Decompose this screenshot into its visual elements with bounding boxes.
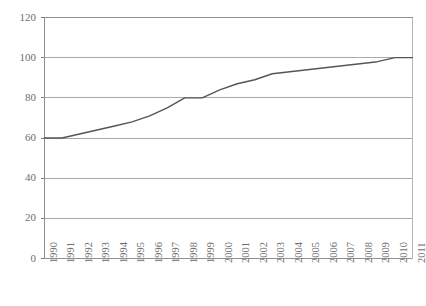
x-tick-label: 2011: [417, 242, 426, 263]
x-tick-label: 1998: [189, 242, 200, 263]
x-tick-label: 1994: [119, 242, 130, 263]
x-tick-label: 1993: [101, 242, 112, 263]
line-chart: 020406080100120 199019911992199319941995…: [0, 0, 426, 306]
x-tick-label: 1992: [84, 242, 95, 263]
y-tick-label: 40: [2, 172, 36, 183]
x-tick-label: 2009: [381, 242, 392, 263]
x-tick-label: 2004: [294, 242, 305, 263]
x-tick-label: 2007: [346, 242, 357, 263]
x-tick-label: 2003: [276, 242, 287, 263]
x-tick-label: 1990: [49, 242, 60, 263]
x-tick-label: 2005: [311, 242, 322, 263]
x-tick-label: 2010: [399, 242, 410, 263]
x-tick-label: 1997: [171, 242, 182, 263]
x-tick-label: 2008: [364, 242, 375, 263]
y-tick-label: 0: [2, 253, 36, 264]
y-tick-label: 100: [2, 52, 36, 63]
gridlines: [45, 18, 413, 259]
x-tick-label: 1996: [154, 242, 165, 263]
x-tick-label: 1995: [136, 242, 147, 263]
x-tick-label: 2002: [259, 242, 270, 263]
x-tick-label: 2006: [329, 242, 340, 263]
y-tick-label: 20: [2, 212, 36, 223]
x-tick-label: 2000: [224, 242, 235, 263]
x-tick-label: 1999: [206, 242, 217, 263]
x-tick-label: 2001: [241, 242, 252, 263]
y-tick-label: 60: [2, 132, 36, 143]
x-tick-label: 1991: [66, 242, 77, 263]
y-tick-label: 80: [2, 92, 36, 103]
y-tick-label: 120: [2, 12, 36, 23]
